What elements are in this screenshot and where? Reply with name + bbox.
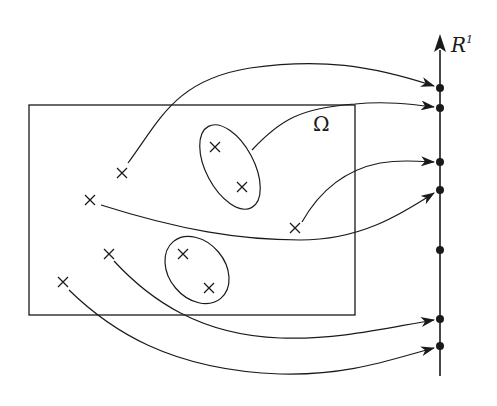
axis-label: R1: [450, 33, 473, 57]
cross-icon: [104, 249, 114, 259]
axis-dot: [436, 246, 444, 254]
axis-dot: [436, 186, 444, 194]
axis-dot: [436, 158, 444, 166]
axis-dot: [436, 315, 444, 323]
mapping-diagram: R1 Ω: [0, 0, 497, 406]
cross-icon: [85, 195, 95, 205]
mapping-arrow: [128, 64, 434, 163]
mapping-arrow: [114, 261, 434, 338]
cross-icon: [58, 277, 68, 287]
mapping-arrow: [101, 193, 434, 240]
mapping-arrow: [69, 290, 434, 374]
axis-dot: [436, 104, 444, 112]
axis-arrowhead-icon: [434, 34, 446, 52]
region-label-omega: Ω: [313, 112, 330, 136]
cluster-ellipse-lower: [152, 224, 242, 317]
mapping-arrow: [302, 161, 434, 222]
cross-icon: [204, 283, 214, 293]
cross-icon: [178, 249, 188, 259]
sample-points: [58, 142, 300, 293]
cross-icon: [210, 142, 220, 152]
mapping-arrow: [252, 103, 434, 150]
cluster-ellipse-upper: [187, 115, 273, 219]
cross-icon: [290, 223, 300, 233]
axis-dot: [436, 342, 444, 350]
domain-rectangle: [29, 105, 355, 315]
diagram-canvas: R1 Ω: [0, 0, 497, 406]
cross-icon: [237, 182, 247, 192]
mapping-arrows: [69, 64, 434, 375]
cross-icon: [117, 168, 127, 178]
axis-dot: [436, 84, 444, 92]
